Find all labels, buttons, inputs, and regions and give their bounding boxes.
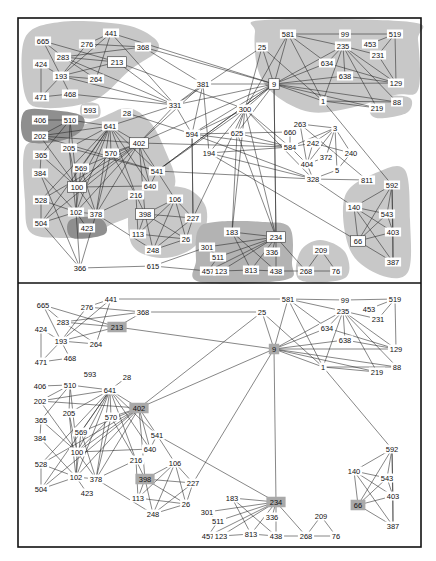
node-398[interactable]: 398 bbox=[135, 474, 154, 485]
node-424[interactable]: 424 bbox=[33, 60, 49, 69]
node-468[interactable]: 468 bbox=[62, 354, 78, 363]
node-219[interactable]: 219 bbox=[369, 104, 385, 113]
node-813[interactable]: 813 bbox=[243, 530, 259, 539]
node-242[interactable]: 242 bbox=[305, 139, 321, 148]
node-406[interactable]: 406 bbox=[32, 116, 48, 125]
node-570[interactable]: 570 bbox=[103, 149, 119, 158]
node-9[interactable]: 9 bbox=[269, 344, 279, 355]
node-813[interactable]: 813 bbox=[243, 266, 259, 275]
node-194[interactable]: 194 bbox=[201, 149, 217, 158]
node-99[interactable]: 99 bbox=[339, 296, 351, 305]
node-25[interactable]: 25 bbox=[256, 308, 268, 317]
node-106[interactable]: 106 bbox=[167, 195, 183, 204]
node-510[interactable]: 510 bbox=[62, 381, 78, 390]
node-76[interactable]: 76 bbox=[330, 532, 342, 541]
node-378[interactable]: 378 bbox=[88, 210, 104, 219]
node-209[interactable]: 209 bbox=[313, 512, 329, 521]
node-123[interactable]: 123 bbox=[213, 532, 229, 541]
node-331[interactable]: 331 bbox=[167, 101, 183, 110]
node-102[interactable]: 102 bbox=[68, 208, 84, 217]
node-234[interactable]: 234 bbox=[266, 497, 285, 508]
node-615[interactable]: 615 bbox=[145, 262, 161, 271]
node-592[interactable]: 592 bbox=[384, 445, 400, 454]
node-365[interactable]: 365 bbox=[33, 416, 49, 425]
node-378[interactable]: 378 bbox=[88, 475, 104, 484]
node-406[interactable]: 406 bbox=[32, 382, 48, 391]
node-28[interactable]: 28 bbox=[121, 373, 133, 382]
node-235[interactable]: 235 bbox=[335, 307, 351, 316]
node-263[interactable]: 263 bbox=[292, 120, 308, 129]
node-387[interactable]: 387 bbox=[385, 522, 401, 531]
node-638[interactable]: 638 bbox=[337, 72, 353, 81]
node-387[interactable]: 387 bbox=[385, 258, 401, 267]
node-140[interactable]: 140 bbox=[346, 203, 362, 212]
node-227[interactable]: 227 bbox=[185, 479, 201, 488]
node-634[interactable]: 634 bbox=[319, 59, 335, 68]
node-584[interactable]: 584 bbox=[282, 143, 298, 152]
node-640[interactable]: 640 bbox=[142, 445, 158, 454]
node-581[interactable]: 581 bbox=[280, 295, 296, 304]
node-593[interactable]: 593 bbox=[82, 370, 98, 379]
node-665[interactable]: 665 bbox=[35, 37, 51, 46]
node-592[interactable]: 592 bbox=[384, 181, 400, 190]
node-641[interactable]: 641 bbox=[102, 386, 118, 395]
node-102[interactable]: 102 bbox=[68, 473, 84, 482]
node-25[interactable]: 25 bbox=[256, 43, 268, 52]
node-528[interactable]: 528 bbox=[33, 460, 49, 469]
node-569[interactable]: 569 bbox=[73, 428, 89, 437]
node-283[interactable]: 283 bbox=[55, 318, 71, 327]
node-9[interactable]: 9 bbox=[269, 79, 279, 90]
node-402[interactable]: 402 bbox=[129, 403, 148, 414]
node-365[interactable]: 365 bbox=[33, 151, 49, 160]
node-264[interactable]: 264 bbox=[88, 75, 104, 84]
node-543[interactable]: 543 bbox=[379, 210, 395, 219]
node-26[interactable]: 26 bbox=[180, 235, 192, 244]
node-123[interactable]: 123 bbox=[213, 267, 229, 276]
node-240[interactable]: 240 bbox=[343, 149, 359, 158]
node-581[interactable]: 581 bbox=[280, 30, 296, 39]
node-423[interactable]: 423 bbox=[79, 489, 95, 498]
node-384[interactable]: 384 bbox=[32, 434, 48, 443]
node-541[interactable]: 541 bbox=[149, 431, 165, 440]
node-235[interactable]: 235 bbox=[335, 42, 351, 51]
node-368[interactable]: 368 bbox=[135, 43, 151, 52]
node-336[interactable]: 336 bbox=[264, 248, 280, 257]
node-231[interactable]: 231 bbox=[370, 315, 386, 324]
node-519[interactable]: 519 bbox=[387, 30, 403, 39]
node-301[interactable]: 301 bbox=[199, 508, 215, 517]
node-511[interactable]: 511 bbox=[210, 253, 226, 262]
node-403[interactable]: 403 bbox=[385, 228, 401, 237]
node-283[interactable]: 283 bbox=[55, 53, 71, 62]
node-423[interactable]: 423 bbox=[79, 224, 95, 233]
node-641[interactable]: 641 bbox=[102, 122, 118, 131]
node-570[interactable]: 570 bbox=[103, 413, 119, 422]
node-660[interactable]: 660 bbox=[282, 128, 298, 137]
node-593[interactable]: 593 bbox=[82, 106, 98, 115]
node-665[interactable]: 665 bbox=[35, 301, 51, 310]
node-113[interactable]: 113 bbox=[130, 494, 146, 503]
node-227[interactable]: 227 bbox=[185, 214, 201, 223]
node-625[interactable]: 625 bbox=[229, 129, 245, 138]
node-209[interactable]: 209 bbox=[313, 246, 329, 255]
node-268[interactable]: 268 bbox=[298, 267, 314, 276]
node-368[interactable]: 368 bbox=[135, 308, 151, 317]
node-129[interactable]: 129 bbox=[388, 345, 404, 354]
node-3[interactable]: 3 bbox=[331, 124, 338, 133]
node-519[interactable]: 519 bbox=[387, 295, 403, 304]
node-183[interactable]: 183 bbox=[224, 494, 240, 503]
node-88[interactable]: 88 bbox=[391, 363, 403, 372]
node-528[interactable]: 528 bbox=[33, 196, 49, 205]
node-213[interactable]: 213 bbox=[107, 322, 126, 333]
node-205[interactable]: 205 bbox=[61, 409, 77, 418]
node-76[interactable]: 76 bbox=[330, 267, 342, 276]
node-99[interactable]: 99 bbox=[339, 30, 351, 39]
node-453[interactable]: 453 bbox=[361, 305, 377, 314]
node-248[interactable]: 248 bbox=[145, 510, 161, 519]
node-504[interactable]: 504 bbox=[33, 485, 49, 494]
node-213[interactable]: 213 bbox=[107, 57, 126, 68]
node-248[interactable]: 248 bbox=[145, 246, 161, 255]
node-468[interactable]: 468 bbox=[62, 90, 78, 99]
node-113[interactable]: 113 bbox=[130, 230, 146, 239]
node-640[interactable]: 640 bbox=[142, 182, 158, 191]
node-543[interactable]: 543 bbox=[379, 474, 395, 483]
